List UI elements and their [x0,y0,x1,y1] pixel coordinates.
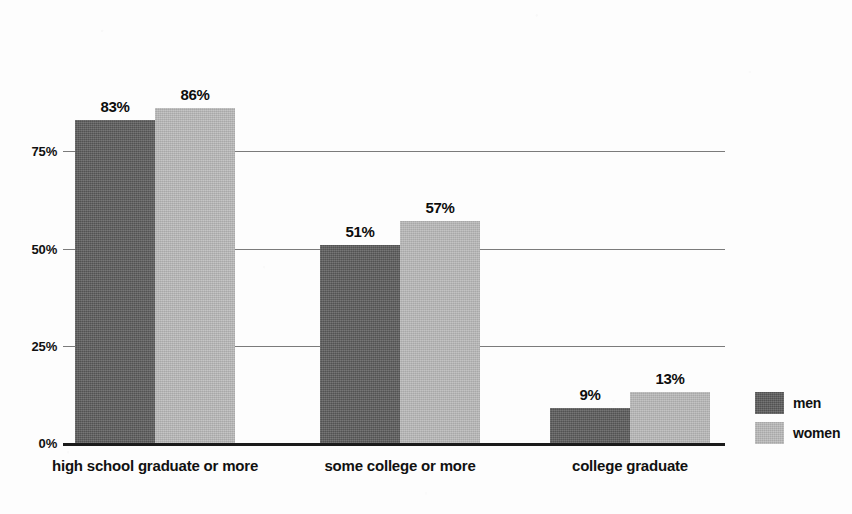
legend: menwomen [755,388,840,448]
bar-men-group-2: 51% [320,245,400,443]
axis-baseline [63,443,725,446]
legend-swatch-men [755,392,784,414]
bar-women-group-3: 13% [630,392,710,443]
bar-men-group-1: 83% [75,120,155,443]
legend-label: men [793,395,821,411]
plot-area: 83%86%51%57%9%13% [75,54,725,443]
x-axis-group-label: college graduate [572,457,688,474]
legend-item-women: women [755,418,840,448]
y-tick-mark [63,346,75,347]
bar-men-group-3: 9% [550,408,630,443]
y-axis: 0%25%50%75% [0,54,57,443]
bar-chart: 0%25%50%75% 83%86%51%57%9%13% high schoo… [0,0,852,514]
legend-swatch-women [755,422,784,444]
bar-value-label: 9% [579,386,600,403]
x-axis-group-label: high school graduate or more [52,457,258,474]
y-axis-tick-label: 25% [32,338,57,353]
y-tick-mark [63,151,75,152]
x-axis-group-label: some college or more [324,457,475,474]
y-axis-tick-label: 50% [32,241,57,256]
bar-value-label: 86% [180,86,209,103]
bar-value-label: 83% [100,98,129,115]
y-axis-tick-label: 0% [39,436,57,451]
y-tick-mark [63,249,75,250]
legend-label: women [793,425,840,441]
bar-women-group-2: 57% [400,221,480,443]
bar-value-label: 57% [425,199,454,216]
bar-value-label: 13% [655,370,684,387]
bar-women-group-1: 86% [155,108,235,443]
legend-item-men: men [755,388,840,418]
y-axis-tick-label: 75% [32,144,57,159]
bar-value-label: 51% [345,223,374,240]
